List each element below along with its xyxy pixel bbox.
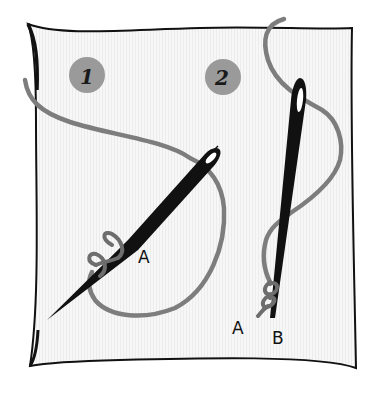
step-2-label-b: B (272, 328, 284, 348)
french-knot-illustration: 1 2 A A B (0, 0, 379, 402)
step-1-label-a: A (138, 247, 150, 267)
step-2-badge: 2 (205, 59, 241, 95)
step-1-badge: 1 (69, 57, 105, 93)
step-2-number: 2 (214, 66, 229, 90)
step-2-label-a: A (232, 318, 244, 338)
step-1-number: 1 (80, 65, 94, 89)
